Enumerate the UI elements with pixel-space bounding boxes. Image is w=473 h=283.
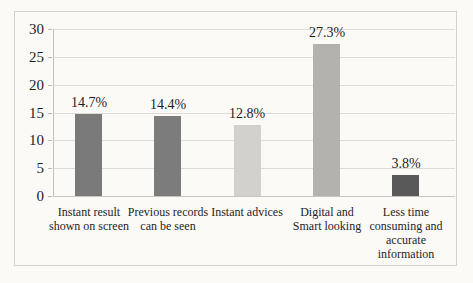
y-axis-tick-0 <box>48 196 52 197</box>
bar-value-label-5: 3.8% <box>366 156 446 172</box>
y-axis-tick-label-5: 5 <box>15 159 44 177</box>
bar-2 <box>154 116 181 196</box>
plot-area: 05101520253014.7%Instant result shown on… <box>15 12 456 265</box>
gridline-20 <box>53 85 455 86</box>
y-axis-tick-label-20: 20 <box>15 76 44 94</box>
document-page: 05101520253014.7%Instant result shown on… <box>0 0 473 283</box>
gridline-25 <box>53 57 455 58</box>
y-axis-tick-25 <box>48 57 52 58</box>
bar-value-label-4: 27.3% <box>287 25 367 41</box>
y-axis-tick-30 <box>48 29 52 30</box>
y-axis-tick-label-15: 15 <box>15 104 44 122</box>
y-axis-tick-10 <box>48 140 52 141</box>
bar-1 <box>75 114 102 196</box>
category-label-5: Less time consuming and accurate informa… <box>359 205 453 261</box>
bar-chart-frame: 05101520253014.7%Instant result shown on… <box>14 11 457 266</box>
gridline-30 <box>53 29 455 30</box>
bar-3 <box>234 125 261 196</box>
bar-4 <box>313 44 340 196</box>
gridline-0 <box>53 196 455 197</box>
y-axis-tick-20 <box>48 85 52 86</box>
y-axis-tick-label-0: 0 <box>15 187 44 205</box>
y-axis-tick-15 <box>48 113 52 114</box>
y-axis-tick-label-10: 10 <box>15 131 44 149</box>
bar-value-label-1: 14.7% <box>49 95 129 111</box>
bar-value-label-2: 14.4% <box>128 97 208 113</box>
bar-5 <box>392 175 419 196</box>
y-axis-tick-5 <box>48 168 52 169</box>
bar-value-label-3: 12.8% <box>207 106 287 122</box>
y-axis-tick-label-25: 25 <box>15 48 44 66</box>
y-axis-line <box>53 29 54 196</box>
y-axis-tick-label-30: 30 <box>15 20 44 38</box>
